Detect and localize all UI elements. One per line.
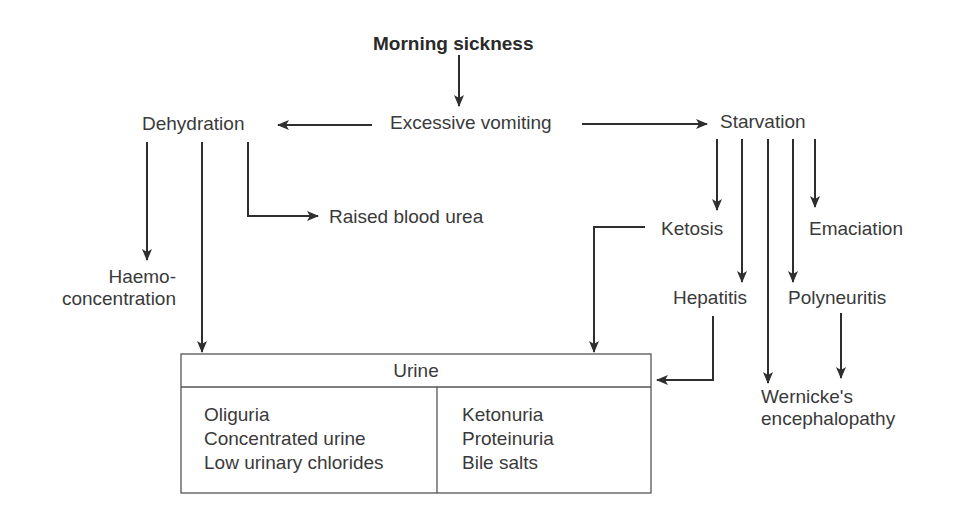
- haemo-line-2: concentration: [60, 288, 176, 310]
- arrow-ketosis-to-urine: [594, 227, 645, 352]
- urine-left-item: Concentrated urine: [204, 427, 384, 451]
- urine-right-list: Ketonuria Proteinuria Bile salts: [462, 403, 554, 475]
- urine-box-title: Urine: [181, 360, 651, 382]
- node-morning-sickness: Morning sickness: [373, 33, 534, 55]
- node-starvation: Starvation: [720, 111, 806, 133]
- node-excessive-vomiting: Excessive vomiting: [390, 112, 552, 134]
- wernicke-line-2: encephalopathy: [761, 408, 895, 430]
- node-haemoconcentration: Haemo- concentration: [60, 266, 176, 310]
- node-polyneuritis: Polyneuritis: [788, 287, 886, 309]
- node-hepatitis: Hepatitis: [673, 287, 747, 309]
- node-dehydration: Dehydration: [142, 113, 244, 135]
- wernicke-line-1: Wernicke's: [761, 386, 895, 408]
- urine-right-item: Ketonuria: [462, 403, 554, 427]
- urine-right-item: Bile salts: [462, 451, 554, 475]
- node-ketosis: Ketosis: [661, 218, 723, 240]
- node-wernickes-encephalopathy: Wernicke's encephalopathy: [761, 386, 895, 430]
- haemo-line-1: Haemo-: [60, 266, 176, 288]
- node-raised-blood-urea: Raised blood urea: [329, 206, 483, 228]
- arrow-dehydration-to-urea: [248, 142, 318, 216]
- node-emaciation: Emaciation: [809, 218, 903, 240]
- urine-right-item: Proteinuria: [462, 427, 554, 451]
- urine-left-item: Low urinary chlorides: [204, 451, 384, 475]
- arrow-hepatitis-to-urine: [657, 316, 713, 380]
- urine-left-item: Oliguria: [204, 403, 384, 427]
- urine-left-list: Oliguria Concentrated urine Low urinary …: [204, 403, 384, 475]
